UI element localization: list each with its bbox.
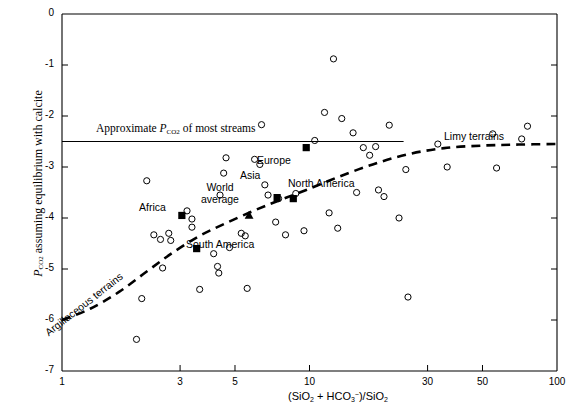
data-point-circle [160,265,166,271]
data-point-circle [221,170,227,176]
data-point-circle [168,237,174,243]
data-point-circle [381,193,387,199]
data-point-circle [211,251,217,257]
x-tick-label: 3 [168,376,192,387]
world-average-label: World average [196,182,244,205]
x-label-sub-b: 2 [384,396,388,403]
data-point-circle [189,216,195,222]
continent-marker-square [178,212,185,219]
refline-text-a: Approximate [96,122,160,134]
x-label-open: (SiO [288,390,310,402]
y-label-symbol: P [31,269,45,276]
data-point-circle [339,115,345,121]
south-america-label: South America [186,239,254,251]
terrain-trend-curve [62,144,557,320]
data-point-circle [265,192,271,198]
chart-figure: 1351030501000-1-2-3-4-5-6-7 Approximate … [0,0,572,412]
data-point-circle [282,232,288,238]
data-point-circle [133,336,139,342]
data-point-circle [151,232,157,238]
data-point-circle [166,230,172,236]
europe-label: Europe [257,155,291,167]
x-tick-label: 5 [223,376,247,387]
data-point-circle [214,263,220,269]
refline-symbol: P [160,122,167,134]
data-point-circle [157,236,163,242]
data-point-circle [354,189,360,195]
data-point-circle [519,136,525,142]
data-point-circle [524,123,530,129]
x-tick-label: 10 [298,376,322,387]
data-point-circle [335,225,341,231]
africa-label: Africa [139,202,166,214]
y-label-rest: assuming equilibrium with calcite [31,90,45,256]
data-point-circle [396,215,402,221]
continent-marker-square [290,195,297,202]
north-america-label: North America [288,178,355,190]
data-point-circle [435,141,441,147]
y-axis-label: PCO2 assuming equilibrium with calcite [31,54,46,314]
data-point-circle [375,187,381,193]
data-point-circle [360,145,366,151]
y-tick-label: 0 [24,7,54,18]
data-point-circle [405,294,411,300]
x-axis-label: (SiO2 + HCO3−)/SiO2 [0,390,572,403]
data-point-circle [326,210,332,216]
data-point-circle [244,285,250,291]
world-average-line1: World [206,181,233,193]
data-point-circle [493,165,499,171]
data-points [133,56,530,343]
data-point-circle [373,144,379,150]
x-tick-label: 1 [50,376,74,387]
data-point-circle [197,286,203,292]
x-tick-label: 30 [416,376,440,387]
data-point-circle [139,295,145,301]
data-point-circle [312,137,318,143]
continent-marker-square [303,144,310,151]
data-point-circle [403,166,409,172]
x-tick-label: 50 [470,376,494,387]
data-point-circle [321,109,327,115]
asia-label: Asia [240,170,260,182]
trend-curve [62,144,557,320]
data-point-circle [301,228,307,234]
data-point-circle [262,182,268,188]
data-point-circle [386,122,392,128]
data-point-circle [258,122,264,128]
y-label-sub: CO2 [37,256,45,269]
x-tick-label: 100 [545,376,569,387]
data-point-circle [189,224,195,230]
data-point-circle [330,56,336,62]
data-point-circle [444,164,450,170]
x-label-plus: + HCO [314,390,351,402]
axis-ticks [62,65,557,371]
data-point-circle [350,130,356,136]
refline-sub: CO2 [167,128,180,136]
limy-terrains-label: Limy terrains [444,131,504,143]
scatter-plot-canvas [0,0,572,412]
data-point-circle [216,270,222,276]
data-point-circle [273,219,279,225]
data-point-circle [367,152,373,158]
y-tick-label: -7 [24,364,54,375]
refline-text-b: of most streams [180,122,256,134]
x-label-close: )/SiO [359,390,384,402]
continent-marker-square [274,194,281,201]
reference-line-label: Approximate PCO2 of most streams [96,122,256,136]
data-point-circle [144,178,150,184]
world-average-line2: average [201,193,239,205]
plot-axes [62,14,557,371]
data-point-circle [223,155,229,161]
